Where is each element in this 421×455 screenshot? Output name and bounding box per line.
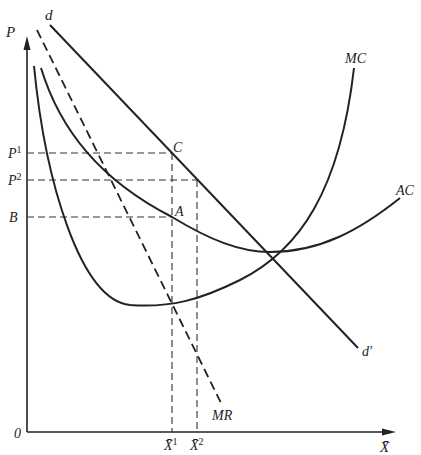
marginal-cost-curve [34, 66, 354, 306]
x-axis-arrow-icon [382, 429, 396, 436]
point-c-label: C [173, 140, 183, 155]
average-cost-curve [41, 68, 400, 252]
mr-label: MR [211, 408, 233, 423]
p1-label: P1 [7, 144, 22, 161]
p2-label: P2 [7, 171, 22, 188]
point-a-label: A [174, 204, 184, 219]
x-axis-label: X̄ [379, 439, 390, 455]
b-label: B [9, 210, 18, 225]
x1-label: X̄1 [163, 436, 178, 453]
ac-label: AC [395, 183, 415, 198]
demand-bottom-label: d′ [362, 344, 373, 359]
x2-label: X̄2 [189, 436, 204, 453]
mc-label: MC [344, 51, 367, 66]
demand-top-label: d [45, 7, 53, 23]
demand-curve [50, 25, 358, 348]
guide-lines [27, 153, 197, 432]
y-axis-label: P [5, 24, 15, 40]
monopolistic-competition-diagram: P X̄ 0 P1 P2 B X̄1 X̄2 C A d d′ MR MC AC [0, 0, 421, 455]
y-axis-arrow-icon [24, 36, 31, 50]
origin-label: 0 [14, 426, 21, 441]
